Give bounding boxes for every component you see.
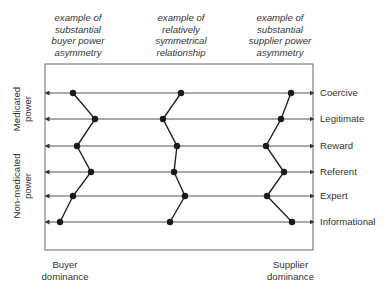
series-supplier-asymmetry xyxy=(263,90,295,225)
label-expert: Expert xyxy=(320,190,348,202)
footer-line: dominance xyxy=(40,271,90,283)
label-legitimate: Legitimate xyxy=(320,113,364,125)
label-coercive: Coercive xyxy=(320,87,358,99)
group-label-line: power xyxy=(22,131,33,241)
group-label-line: Non-medicated xyxy=(11,131,22,241)
power-axes xyxy=(47,93,312,222)
footer-line: Buyer xyxy=(40,259,90,271)
series-symmetrical xyxy=(160,90,188,225)
footer-supplier-dominance: Supplier dominance xyxy=(263,259,318,283)
label-referent: Referent xyxy=(320,166,357,178)
footer-line: Supplier xyxy=(263,259,318,271)
series-buyer-asymmetry xyxy=(57,90,98,225)
footer-line: dominance xyxy=(263,271,318,283)
footer-buyer-dominance: Buyer dominance xyxy=(40,259,90,283)
label-reward: Reward xyxy=(320,140,353,152)
group-label-non-medicated: Non-medicated power xyxy=(11,131,33,241)
label-informational: Informational xyxy=(320,216,375,228)
